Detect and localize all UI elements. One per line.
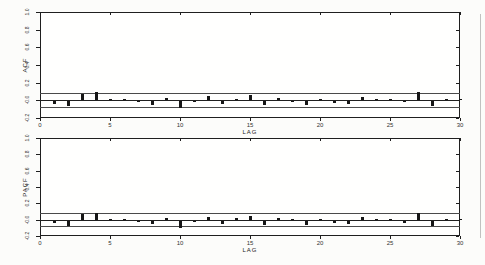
acf-confidence-band-line (40, 107, 460, 108)
pacf-x-tick (40, 236, 41, 239)
acf-bar-lag-29 (445, 99, 448, 100)
acf-x-axis-label: LAG (235, 129, 265, 135)
acf-bar-lag-18 (291, 101, 294, 102)
acf-x-tick (460, 118, 461, 121)
pacf-x-tick (320, 236, 321, 239)
pacf-y-tick-right (456, 154, 459, 155)
pacf-bar-lag-17 (277, 218, 280, 220)
acf-bar-lag-8 (151, 101, 154, 105)
acf-bar-lag-10 (179, 101, 182, 108)
pacf-x-tick-label: 25 (382, 240, 398, 246)
acf-x-tick (40, 118, 41, 121)
pacf-y-tick-right (456, 236, 459, 237)
acf-y-tick-label: -0.0 (24, 91, 30, 109)
pacf-plot-frame (40, 138, 460, 236)
acf-x-tick-label: 25 (382, 122, 398, 128)
pacf-bar-lag-25 (389, 219, 392, 220)
pacf-x-tick-top (40, 138, 41, 141)
pacf-bar-lag-22 (347, 221, 350, 224)
pacf-bar-lag-23 (361, 217, 364, 220)
pacf-x-tick-label: 30 (452, 240, 468, 246)
acf-x-tick (320, 118, 321, 121)
acf-bar-lag-24 (375, 99, 378, 100)
scan-edge-artifact (480, 14, 481, 238)
acf-bar-lag-3 (81, 94, 84, 100)
pacf-x-tick-top (180, 138, 181, 141)
pacf-bar-lag-28 (431, 221, 434, 226)
pacf-bar-lag-26 (403, 221, 406, 223)
pacf-bar-lag-21 (333, 221, 336, 223)
pacf-bar-lag-24 (375, 219, 378, 220)
pacf-x-tick-label: 5 (102, 240, 118, 246)
pacf-bar-lag-13 (221, 221, 224, 224)
pacf-y-tick (36, 187, 40, 188)
acf-y-tick (36, 100, 40, 101)
acf-x-tick (110, 118, 111, 121)
pacf-confidence-band-line (40, 226, 460, 227)
pacf-x-tick (250, 236, 251, 239)
pacf-zero-line (40, 220, 460, 221)
pacf-x-tick-label: 15 (242, 240, 258, 246)
acf-y-tick-right (456, 65, 459, 66)
acf-bar-lag-23 (361, 97, 364, 100)
pacf-bar-lag-1 (53, 221, 56, 223)
pacf-x-tick-label: 20 (312, 240, 328, 246)
acf-y-tick (36, 83, 40, 84)
pacf-bar-lag-18 (291, 219, 294, 220)
acf-x-tick-top (40, 12, 41, 15)
acf-y-tick-right (456, 83, 459, 84)
pacf-x-tick-top (460, 138, 461, 141)
acf-y-tick-right (456, 30, 459, 31)
acf-y-tick (36, 47, 40, 48)
pacf-bar-lag-8 (151, 221, 154, 224)
pacf-y-tick-label: 0.8 (24, 145, 30, 163)
acf-y-tick (36, 30, 40, 31)
acf-x-tick-label: 15 (242, 122, 258, 128)
pacf-x-tick-top (250, 138, 251, 141)
acf-bar-lag-20 (319, 99, 322, 100)
acf-y-tick-label: 0.2 (24, 74, 30, 92)
acf-confidence-band-line (40, 93, 460, 94)
acf-bar-lag-4 (95, 92, 98, 100)
acf-x-tick-label: 20 (312, 122, 328, 128)
pacf-x-tick (390, 236, 391, 239)
acf-bar-lag-25 (389, 99, 392, 100)
acf-x-tick-top (180, 12, 181, 15)
pacf-x-tick-top (110, 138, 111, 141)
pacf-bar-lag-6 (123, 219, 126, 220)
pacf-x-tick-top (390, 138, 391, 141)
acf-zero-line (40, 100, 460, 101)
acf-plot-frame (40, 12, 460, 118)
acf-bar-lag-22 (347, 101, 350, 104)
acf-bar-lag-9 (165, 98, 168, 100)
pacf-x-tick-top (320, 138, 321, 141)
acf-x-tick-label: 30 (452, 122, 468, 128)
acf-y-tick-right (456, 47, 459, 48)
acf-y-tick (36, 65, 40, 66)
pacf-bar-lag-19 (305, 221, 308, 225)
acf-bar-lag-2 (67, 101, 70, 106)
pacf-bar-lag-10 (179, 221, 182, 228)
acf-bar-lag-28 (431, 101, 434, 106)
pacf-bar-lag-2 (67, 221, 70, 226)
pacf-y-tick-right (456, 220, 459, 221)
acf-y-tick-label: 0.6 (24, 38, 30, 56)
acf-y-tick-label: 0.8 (24, 21, 30, 39)
pacf-bar-lag-15 (249, 216, 252, 220)
acf-bar-lag-15 (249, 95, 252, 100)
acf-x-tick-label: 0 (32, 122, 48, 128)
pacf-y-tick-label: -0.2 (24, 227, 30, 245)
pacf-y-tick-right (456, 203, 459, 204)
acf-x-tick (180, 118, 181, 121)
pacf-y-tick-right (456, 138, 459, 139)
pacf-bar-lag-11 (193, 221, 196, 222)
acf-x-tick (390, 118, 391, 121)
acf-x-tick-top (320, 12, 321, 15)
pacf-y-tick-label: 0.2 (24, 194, 30, 212)
acf-x-tick-top (390, 12, 391, 15)
acf-x-tick (250, 118, 251, 121)
pacf-y-tick (36, 203, 40, 204)
pacf-bar-lag-30 (459, 219, 462, 220)
pacf-bar-lag-14 (235, 218, 238, 220)
pacf-x-axis-label: LAG (235, 247, 265, 253)
